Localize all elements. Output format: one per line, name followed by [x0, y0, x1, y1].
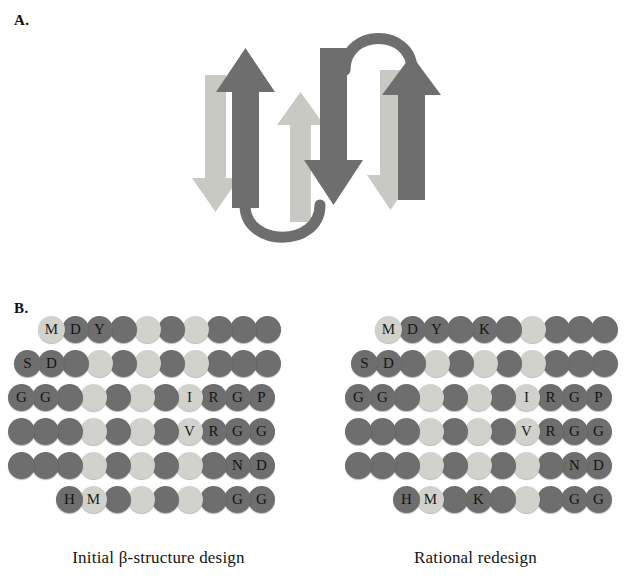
residue-bead-M: M: [375, 316, 402, 343]
residue-bead: [417, 418, 444, 445]
residue-bead: [489, 486, 516, 513]
residue-bead-G: G: [224, 486, 251, 513]
residue-bead-D: D: [399, 316, 426, 343]
residue-bead: [86, 350, 113, 377]
residue-bead: [56, 418, 83, 445]
residue-bead: [104, 452, 131, 479]
residue-bead: [8, 452, 35, 479]
residue-bead: [254, 350, 281, 377]
residue-bead-P: P: [585, 384, 612, 411]
residue-bead: [104, 486, 131, 513]
residue-bead-G: G: [248, 418, 275, 445]
residue-row: MDY: [38, 314, 278, 344]
residue-bead: [128, 452, 155, 479]
residue-bead-K: K: [471, 316, 498, 343]
residue-bead-S: S: [351, 350, 378, 377]
residue-bead: [80, 384, 107, 411]
residue-bead: [441, 384, 468, 411]
panel-b-residue-maps: B. MDYSDGGIRGPVRGGNDHMGG Initial β-struc…: [0, 300, 634, 579]
residue-bead: [369, 418, 396, 445]
residue-bead: [399, 350, 426, 377]
residue-bead: [489, 418, 516, 445]
residue-row: GGIRGP: [345, 382, 609, 412]
residue-bead: [543, 350, 570, 377]
residue-bead: [441, 418, 468, 445]
residue-bead: [513, 486, 540, 513]
residue-bead: [465, 384, 492, 411]
residue-row: ND: [8, 450, 272, 480]
residue-bead: [182, 316, 209, 343]
residue-bead: [393, 384, 420, 411]
residue-bead-I: I: [513, 384, 540, 411]
light-strand-group: [192, 70, 414, 222]
residue-bead: [591, 316, 618, 343]
residue-bead: [152, 486, 179, 513]
residue-bead: [417, 452, 444, 479]
dark-strand-group: [216, 48, 441, 208]
residue-bead: [519, 350, 546, 377]
residue-bead: [447, 316, 474, 343]
residue-row: ND: [345, 450, 609, 480]
residue-bead-Y: Y: [423, 316, 450, 343]
residue-bead-H: H: [56, 486, 83, 513]
residue-bead-G: G: [224, 418, 251, 445]
residue-bead: [110, 350, 137, 377]
residue-bead: [591, 350, 618, 377]
residue-bead: [441, 452, 468, 479]
residue-bead-G: G: [585, 418, 612, 445]
residue-bead-M: M: [417, 486, 444, 513]
residue-bead-Y: Y: [86, 316, 113, 343]
residue-bead: [182, 350, 209, 377]
residue-bead: [152, 384, 179, 411]
residue-bead: [104, 418, 131, 445]
caption-rational-redesign: Rational redesign: [317, 548, 634, 568]
residue-map-redesign: MDYKSDGGIRGPVRGGNDHMKGG: [317, 314, 634, 539]
residue-bead-M: M: [38, 316, 65, 343]
residue-bead-D: D: [585, 452, 612, 479]
caption-initial-design: Initial β-structure design: [0, 548, 317, 568]
panel-a-topology: A.: [0, 0, 634, 280]
residue-row: VRGG: [345, 416, 609, 446]
residue-bead: [447, 350, 474, 377]
residue-bead: [567, 350, 594, 377]
residue-bead: [393, 418, 420, 445]
residue-bead: [423, 350, 450, 377]
residue-bead: [62, 350, 89, 377]
residue-bead: [128, 384, 155, 411]
design-rational-redesign: MDYKSDGGIRGPVRGGNDHMKGG Rational redesig…: [317, 300, 634, 579]
residue-bead: [465, 452, 492, 479]
residue-bead-S: S: [14, 350, 41, 377]
residue-bead: [345, 452, 372, 479]
residue-bead: [254, 316, 281, 343]
residue-bead: [134, 350, 161, 377]
residue-bead-G: G: [8, 384, 35, 411]
residue-bead-D: D: [375, 350, 402, 377]
residue-bead-D: D: [62, 316, 89, 343]
residue-bead: [176, 486, 203, 513]
residue-bead: [176, 452, 203, 479]
residue-bead-G: G: [248, 486, 275, 513]
panel-a-label: A.: [14, 12, 30, 29]
residue-bead: [8, 418, 35, 445]
residue-bead-V: V: [513, 418, 540, 445]
residue-bead: [80, 452, 107, 479]
strand-4-dark-down-arrow: [304, 48, 363, 205]
residue-bead-I: I: [176, 384, 203, 411]
design-initial-beta-structure: MDYSDGGIRGPVRGGNDHMGG Initial β-structur…: [0, 300, 317, 579]
residue-bead: [56, 452, 83, 479]
residue-bead-D: D: [248, 452, 275, 479]
residue-bead-R: R: [537, 384, 564, 411]
residue-bead-N: N: [224, 452, 251, 479]
residue-bead: [128, 486, 155, 513]
residue-bead: [110, 316, 137, 343]
residue-bead: [495, 316, 522, 343]
residue-bead-G: G: [561, 384, 588, 411]
residue-row: MDYK: [375, 314, 615, 344]
residue-bead-G: G: [561, 486, 588, 513]
residue-bead: [56, 384, 83, 411]
residue-bead-N: N: [561, 452, 588, 479]
residue-bead: [567, 316, 594, 343]
residue-bead: [206, 350, 233, 377]
residue-row: HMKGG: [393, 484, 609, 514]
residue-bead-K: K: [465, 486, 492, 513]
